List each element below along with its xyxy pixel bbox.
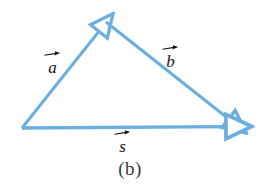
vector-label-a-text: a [48,59,57,76]
overhead-arrow-icon [114,129,131,137]
overhead-arrow-icon [162,44,179,52]
overhead-arrow-icon [44,50,61,58]
vector-a-line [22,30,100,128]
vector-label-b-text: b [166,53,175,70]
vector-label-b: b [162,44,179,70]
vector-s-line [22,127,228,128]
vector-label-a: a [44,50,61,76]
figure-caption: (b) [0,158,260,180]
vector-label-s-text: s [119,138,126,155]
vector-b-line [106,22,230,120]
vector-label-s: s [114,129,131,155]
figure-canvas: a b s (b) [0,0,260,186]
